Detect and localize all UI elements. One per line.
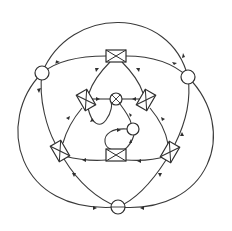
curl-mid <box>105 129 127 150</box>
mid-to-bottombox <box>124 135 134 150</box>
mid-arc-lowerright-bottom <box>118 160 166 207</box>
circle-node-left <box>35 66 49 80</box>
box-node-top <box>106 50 126 62</box>
circle-node-bottom <box>111 200 125 214</box>
arrow-icon <box>161 117 165 121</box>
arrow-icon <box>137 159 141 163</box>
box-node-lower-left <box>50 140 69 162</box>
arrow-icon <box>158 173 162 177</box>
arrow-icon <box>66 116 70 120</box>
mid-arc-left-down <box>41 73 55 143</box>
inner-right-to-lowerright <box>150 108 168 144</box>
arrow-icon <box>172 62 177 65</box>
box-node-inner-bottom <box>106 149 126 161</box>
inner-arc-topbox-left <box>89 62 110 93</box>
mid-arc-top-right <box>126 56 188 77</box>
arrow-icon <box>95 68 99 72</box>
arrow-icon <box>82 158 86 162</box>
inner-left-to-lowerleft <box>63 108 82 143</box>
box-node-inner-left <box>76 89 95 111</box>
outer-arc-left <box>18 73 118 207</box>
arrow-icon <box>136 68 140 72</box>
box-node-inner-right <box>136 89 155 111</box>
box-node-lower-right <box>160 141 179 163</box>
arrow-icon <box>96 97 100 101</box>
outer-arc-right <box>118 77 213 208</box>
arrow-icon <box>182 53 185 58</box>
mid-arc-lowerleft-bottom <box>64 159 118 207</box>
arrow-icon <box>129 113 132 117</box>
inner-arc-topbox-right <box>122 62 143 93</box>
circle-node-right <box>181 70 195 84</box>
arrow-icon <box>132 97 136 101</box>
circle-node-center-top <box>110 93 122 105</box>
arrow-icon <box>37 88 41 93</box>
knot-diagram <box>0 0 232 231</box>
circle-node-center-mid <box>127 123 139 135</box>
